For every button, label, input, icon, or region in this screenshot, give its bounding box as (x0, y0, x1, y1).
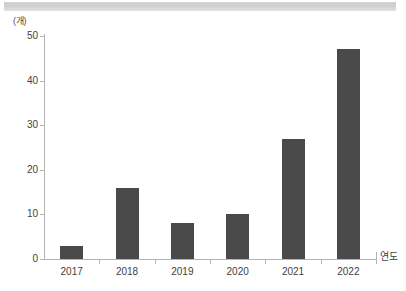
x-axis-tick (265, 259, 266, 264)
bar (60, 246, 83, 259)
x-axis-title: 연도 (380, 248, 398, 263)
x-axis-tick-label: 2021 (269, 266, 317, 277)
y-axis-tick-label: 20 (4, 164, 38, 175)
y-axis-tick-label: 0 (4, 253, 38, 264)
x-axis-tick-label: 2018 (103, 266, 151, 277)
y-axis-tick-label: 40 (4, 75, 38, 86)
x-axis-tick (99, 259, 100, 264)
y-axis-tick-label: 10 (4, 208, 38, 219)
x-axis-tick-label: 2020 (214, 266, 262, 277)
x-axis-tick (155, 259, 156, 264)
bar (337, 49, 360, 259)
y-axis-tick-label: 50 (4, 30, 38, 41)
bar (171, 223, 194, 259)
bar (116, 188, 139, 259)
y-axis-unit-label: (개) (13, 14, 26, 27)
x-axis-tick (321, 259, 322, 264)
bar (282, 139, 305, 259)
plot-area (44, 36, 376, 259)
x-axis-tick-label: 2017 (48, 266, 96, 277)
x-axis-tick (376, 259, 377, 264)
x-axis-tick-label: 2022 (324, 266, 372, 277)
y-axis-tick (40, 259, 45, 260)
y-axis-tick-label: 30 (4, 119, 38, 130)
bar (226, 214, 249, 259)
x-axis-tick (210, 259, 211, 264)
x-axis-tick-label: 2019 (158, 266, 206, 277)
bar-chart-figure: (개) 01020304050 201720182019202020212022… (0, 0, 406, 291)
